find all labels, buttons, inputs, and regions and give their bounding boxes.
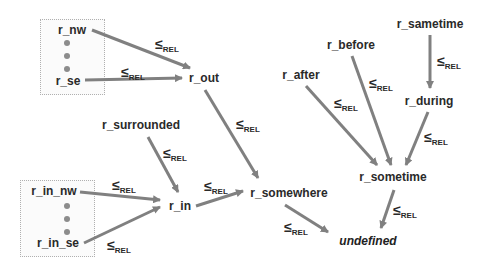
edge-r_sometime-to-undefined <box>381 190 394 228</box>
edge-label-r_during-r_sometime: ≤REL <box>424 128 448 147</box>
edge-label-r_sametime-r_during: ≤REL <box>437 52 461 71</box>
node-r_sometime: r_sometime <box>359 170 426 184</box>
node-r_after: r_after <box>282 68 319 82</box>
relation-hierarchy-diagram: r_nw r_se r_out r_surrounded r_in_nw r_i… <box>0 0 481 265</box>
node-r_somewhere: r_somewhere <box>250 186 327 200</box>
edge-label-r_after-r_sometime: ≤REL <box>334 94 358 113</box>
node-r_se: r_se <box>56 74 81 88</box>
edge-label-r_in_nw-r_in: ≤REL <box>112 176 136 195</box>
node-r_sametime: r_sametime <box>397 17 464 31</box>
node-r_surrounded: r_surrounded <box>102 118 180 132</box>
edge-label-r_before-r_sometime: ≤REL <box>369 74 393 93</box>
node-r_nw: r_nw <box>58 23 86 37</box>
edge-label-r_in_se-r_in: ≤REL <box>107 236 131 255</box>
edge-label-r_nw-r_out: ≤REL <box>155 35 179 54</box>
edge-label-r_sometime-undefined: ≤REL <box>393 201 417 220</box>
node-r_in_se: r_in_se <box>37 236 79 250</box>
node-undefined: undefined <box>339 234 396 248</box>
node-r_in: r_in <box>169 199 191 213</box>
node-r_during: r_during <box>405 94 454 108</box>
edge-label-r_surrounded-r_in: ≤REL <box>163 144 187 163</box>
node-r_before: r_before <box>327 38 375 52</box>
edge-label-r_somewhere-undefined: ≤REL <box>284 218 308 237</box>
edge-r_out-to-r_somewhere <box>205 90 258 178</box>
node-r_out: r_out <box>189 71 219 85</box>
edge-label-r_se-r_out: ≤REL <box>121 63 145 82</box>
node-r_in_nw: r_in_nw <box>31 184 76 198</box>
edge-label-r_out-r_somewhere: ≤REL <box>236 115 260 134</box>
edge-label-r_in-r_somewhere: ≤REL <box>204 177 228 196</box>
